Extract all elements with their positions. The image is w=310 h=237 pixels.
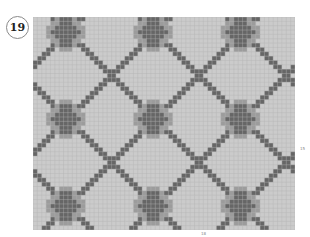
column-count-label: 18 — [201, 231, 206, 236]
figure-number: 19 — [10, 21, 25, 34]
figure-number-badge: 19 — [6, 16, 29, 39]
row-count-label: 15 — [300, 146, 305, 151]
pattern-canvas — [33, 17, 295, 230]
knitting-chart-grid — [33, 17, 295, 230]
